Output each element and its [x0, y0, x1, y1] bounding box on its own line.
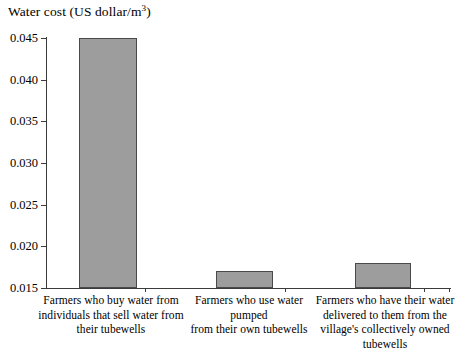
x-axis-category-label-line: their tubewells [38, 322, 184, 337]
x-axis-category-label: Farmers who buy water fromindividuals th… [38, 293, 184, 337]
chart-title-text: Water cost (US dollar/m [8, 4, 142, 19]
y-axis-tick-label: 0.015 [10, 282, 38, 295]
x-axis-category-label-line: village's collectively owned [312, 322, 458, 337]
bar [216, 271, 273, 288]
y-axis-tick-label: 0.040 [10, 73, 38, 86]
chart-title-suffix: ) [146, 4, 151, 19]
x-axis-line [46, 288, 451, 289]
x-axis-tick [145, 288, 146, 292]
y-axis-tick [41, 205, 46, 206]
y-axis-tick [41, 246, 46, 247]
x-axis-category-label-line: delivered to them from the [312, 308, 458, 323]
y-axis-tick-label: 0.045 [10, 32, 38, 45]
chart-title: Water cost (US dollar/m3) [8, 4, 151, 20]
x-axis-category-label-line: Farmers who use water pumped [184, 293, 314, 322]
y-axis-tick [41, 121, 46, 122]
x-axis-category-label-line: Farmers who have their water [312, 293, 458, 308]
plot-area: 0.0450.0400.0350.0300.0250.0200.015 [46, 38, 450, 288]
y-axis-tick-label: 0.025 [10, 198, 38, 211]
x-axis-category-label-line: tubewells [312, 337, 458, 352]
x-axis-tick [424, 288, 425, 292]
bar [355, 263, 411, 288]
y-axis-tick [41, 80, 46, 81]
y-axis-tick [41, 163, 46, 164]
y-axis-tick-label: 0.030 [10, 157, 38, 170]
x-axis-category-label: Farmers who have their waterdelivered to… [312, 293, 458, 351]
y-axis-tick-label: 0.020 [10, 240, 38, 253]
y-axis-tick-label: 0.035 [10, 115, 38, 128]
x-axis-category-label-line: individuals that sell water from [38, 308, 184, 323]
x-axis-tick [449, 288, 450, 292]
bar [79, 38, 137, 288]
x-axis-category-label-line: from their own tubewells [184, 322, 314, 337]
x-axis-labels: Farmers who buy water fromindividuals th… [46, 293, 452, 353]
x-axis-tick [285, 288, 286, 292]
x-axis-category-label: Farmers who use water pumpedfrom their o… [184, 293, 314, 337]
y-axis-tick [41, 288, 46, 289]
x-axis-category-label-line: Farmers who buy water from [38, 293, 184, 308]
y-axis-tick [41, 38, 46, 39]
